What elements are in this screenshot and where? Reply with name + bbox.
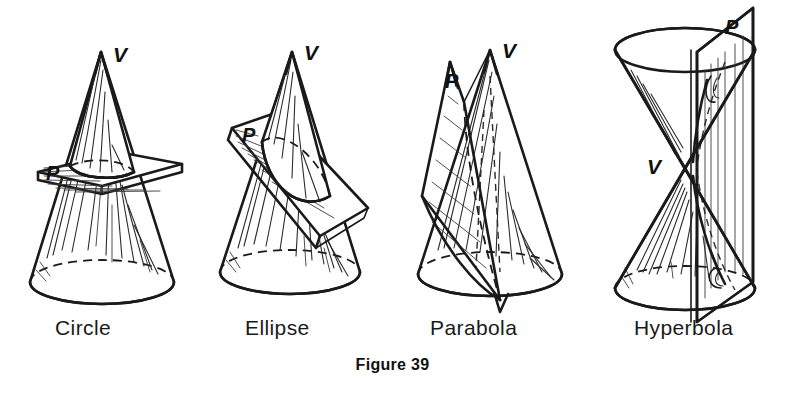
plane-label-p: P (46, 162, 60, 184)
vertex-label-v: V (502, 39, 518, 62)
upper-nappe (615, 28, 755, 168)
plane-label-p: P (725, 16, 739, 38)
caption-circle: Circle (55, 316, 111, 340)
panel-parabola: V P (392, 0, 587, 340)
vertex-label-v: V (647, 155, 663, 178)
cone-upper-body (70, 52, 134, 178)
vertex-label-v: V (304, 41, 320, 64)
vertex-label-v: V (113, 43, 129, 66)
panel-captions: Circle Ellipse Parabola Hyperbola (0, 316, 785, 350)
plane-label-p: P (242, 124, 256, 146)
panel-hyperbola: V P (585, 0, 785, 340)
conic-sections-figure: V P (0, 0, 785, 397)
figure-number-caption: Figure 39 (0, 356, 785, 374)
panel-circle: V P (0, 0, 200, 340)
caption-hyperbola: Hyperbola (634, 316, 733, 340)
plane-label-p: P (445, 70, 459, 92)
caption-ellipse: Ellipse (245, 316, 310, 340)
panel-ellipse: V P (196, 0, 396, 340)
caption-parabola: Parabola (430, 316, 517, 340)
